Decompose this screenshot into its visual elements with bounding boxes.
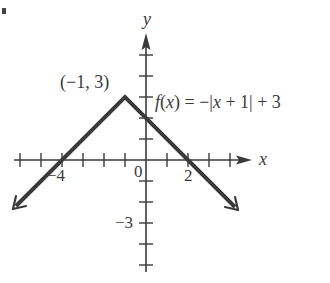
coordinate-plane: [0, 0, 330, 283]
y-axis: [139, 33, 153, 272]
tick-label-2: 2: [184, 167, 193, 184]
y-axis-label: y: [143, 10, 151, 28]
function-line: [16, 97, 235, 207]
x-axis: [14, 153, 252, 167]
function-label: f(x) = −|x + 1| + 3: [155, 93, 281, 111]
function-arg-x: x: [166, 92, 174, 112]
function-tail: + 1| + 3: [221, 92, 281, 112]
x-axis-label: x: [259, 150, 267, 168]
function-eq: = −|: [180, 92, 213, 112]
tick-label-neg3: −3: [115, 214, 133, 231]
tick-label-0: 0: [134, 163, 143, 180]
tick-label-neg4: −4: [47, 167, 65, 184]
vertex-label: (−1, 3): [60, 73, 109, 91]
function-x: x: [213, 92, 221, 112]
